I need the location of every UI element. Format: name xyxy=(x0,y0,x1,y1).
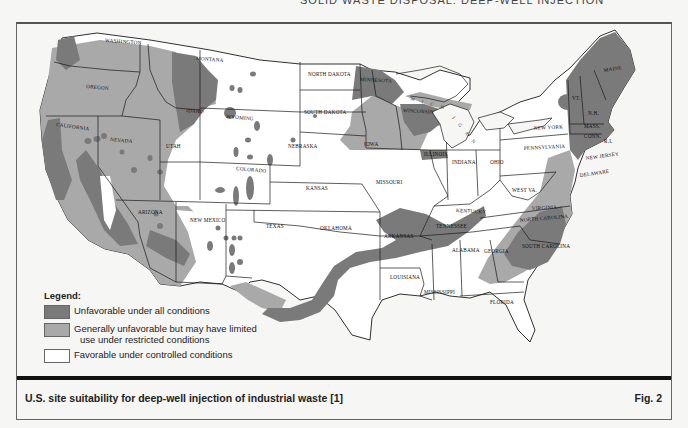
state-label-georgia: GEORGIA xyxy=(484,248,509,254)
caption-divider xyxy=(17,376,671,380)
state-label-missouri: MISSOURI xyxy=(376,179,402,185)
state-label-arizona: ARIZONA xyxy=(138,209,163,215)
legend-swatch-light-gray xyxy=(44,323,70,337)
state-label-massachusetts: MASS. xyxy=(584,123,600,129)
state-label-tennessee: TENNESSEE xyxy=(436,223,467,229)
legend-item-limited: Generally unfavorable but may have limit… xyxy=(44,323,257,345)
figure-number: Fig. 2 xyxy=(635,392,662,404)
legend-label: Unfavorable under all conditions xyxy=(74,305,210,316)
state-label-iowa: IOWA xyxy=(364,141,378,147)
state-label-west-virginia: WEST VA. xyxy=(512,187,537,193)
state-label-idaho: IDAHO xyxy=(186,107,204,114)
state-label-new-mexico: NEW MEXICO xyxy=(190,217,226,223)
state-label-vermont: VT. xyxy=(572,95,580,101)
state-label-new-jersey: NEW JERSEY xyxy=(585,150,619,161)
legend-item-favorable: Favorable under controlled conditions xyxy=(44,349,257,363)
state-label-south-carolina: SOUTH CAROLINA xyxy=(522,243,570,249)
state-label-north-dakota: NORTH DAKOTA xyxy=(308,71,351,77)
legend-swatch-dark-gray xyxy=(44,305,70,319)
figure-caption: U.S. site suitability for deep-well inje… xyxy=(25,392,343,404)
state-label-arkansas: ARKANSAS xyxy=(384,233,414,239)
state-label-texas: TEXAS xyxy=(266,223,284,229)
state-label-indiana: INDIANA xyxy=(452,159,476,165)
legend-title: Legend: xyxy=(44,290,257,301)
legend-swatch-white xyxy=(44,349,70,363)
state-label-kansas: KANSAS xyxy=(306,185,328,191)
map-legend: Legend: Unfavorable under all conditions… xyxy=(44,290,257,367)
legend-label: Generally unfavorable but may have limit… xyxy=(74,323,257,334)
state-label-new-hampshire: N.H. xyxy=(588,110,599,116)
state-label-ohio: OHIO xyxy=(490,159,504,165)
state-label-oklahoma: OKLAHOMA xyxy=(320,225,352,231)
state-label-illinois: ILLINOIS xyxy=(424,151,448,157)
legend-label-line-2: use under restricted conditions xyxy=(74,334,257,345)
state-label-florida: FLORIDA xyxy=(490,299,514,305)
state-label-delaware: DELAWARE xyxy=(579,168,609,178)
legend-label: Favorable under controlled conditions xyxy=(74,349,232,360)
state-label-nebraska: NEBRASKA xyxy=(288,143,318,149)
state-label-alabama: ALABAMA xyxy=(452,247,480,253)
state-label-mississippi: MISSISSIPPI xyxy=(424,289,455,295)
legend-item-unfavorable: Unfavorable under all conditions xyxy=(44,305,257,319)
state-label-louisiana: LOUISIANA xyxy=(390,274,420,280)
state-label-connecticut: CONN. xyxy=(584,133,601,139)
state-label-rhode-island: R.I. xyxy=(604,138,613,144)
state-label-south-dakota: SOUTH DAKOTA xyxy=(304,109,347,115)
state-label-utah: UTAH xyxy=(166,143,181,149)
